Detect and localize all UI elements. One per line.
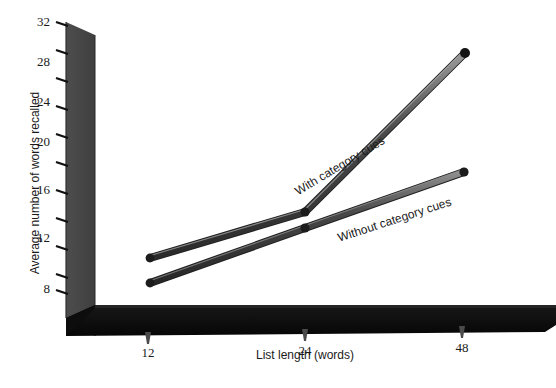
chart-figure: 32 28 24 20 16 12 8 12 24 48 Average num… xyxy=(0,0,556,388)
x-axis-block xyxy=(66,305,556,336)
x-tick-label-12: 12 xyxy=(128,345,168,361)
x-tick-label-48: 48 xyxy=(442,340,482,356)
chart-plot-area xyxy=(0,0,556,388)
y-axis-block xyxy=(66,22,95,336)
y-tick-label-32: 32 xyxy=(20,14,50,30)
x-axis-title: List length (words) xyxy=(225,348,385,362)
y-axis-title: Average number of words recalled xyxy=(28,63,42,303)
